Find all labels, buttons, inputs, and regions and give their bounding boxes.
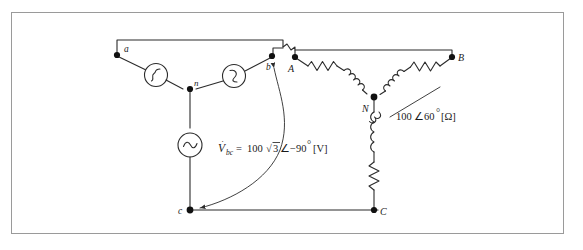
circuit-diagram: a b c n A B C N V . bc = 100 √ 3 ∠ −90 °… <box>0 0 583 250</box>
voltage-angle: −90 <box>290 143 306 154</box>
source-b-n <box>223 65 246 88</box>
source-voltage-label: V . bc = 100 √ 3 ∠ −90 ° [V] <box>218 134 328 158</box>
voltage-phasor-dot: . <box>222 134 224 144</box>
node-label-c: c <box>178 206 183 216</box>
node-label-b: b <box>266 62 271 72</box>
node-label-B: B <box>458 52 464 63</box>
node-label-C: C <box>380 206 387 217</box>
voltage-unit: [V] <box>313 143 328 154</box>
node-dot-n <box>187 86 193 92</box>
node-label-A: A <box>287 63 295 74</box>
voltage-subscript: bc <box>226 148 234 157</box>
wire-A-to-B <box>295 50 452 57</box>
node-label-n: n <box>194 78 199 88</box>
vbc-measurement-arrow[interactable] <box>200 68 285 208</box>
source-c-n <box>178 133 202 157</box>
wire-source-a-to-n <box>166 80 183 89</box>
node-dot-N <box>371 94 378 101</box>
voltage-angle-sign: ∠ <box>280 143 290 154</box>
node-dot-C <box>371 207 377 213</box>
voltage-radicand: 3 <box>273 143 278 154</box>
branch-N-B <box>380 58 451 95</box>
impedance-unit: [Ω] <box>441 111 456 122</box>
wire-a-to-A <box>117 40 295 56</box>
voltage-radical: √ <box>266 143 272 154</box>
impedance-angle: 60 <box>424 111 435 122</box>
voltage-equals: = <box>236 143 242 154</box>
voltage-degree: ° <box>307 139 311 150</box>
source-a-n <box>145 64 168 87</box>
impedance-label: 100 ∠ 60 ° [Ω] <box>396 107 456 122</box>
node-dot-B <box>449 54 455 60</box>
node-dot-a <box>114 52 120 58</box>
wire-source-b-to-n <box>196 81 223 89</box>
branch-N-C <box>369 99 380 209</box>
impedance-angle-sign: ∠ <box>414 111 424 122</box>
branch-N-A <box>296 58 367 94</box>
wire-a-to-source <box>117 56 146 70</box>
voltage-magnitude: 100 <box>247 143 263 154</box>
figure-page: a b c n A B C N V . bc = 100 √ 3 ∠ −90 °… <box>0 0 583 250</box>
node-dot-b <box>269 53 275 59</box>
node-dot-c <box>187 207 194 214</box>
node-dot-A <box>292 54 298 60</box>
node-label-N: N <box>361 103 370 114</box>
node-label-a: a <box>124 44 129 54</box>
impedance-magnitude: 100 <box>396 111 412 122</box>
impedance-degree: ° <box>436 107 440 118</box>
